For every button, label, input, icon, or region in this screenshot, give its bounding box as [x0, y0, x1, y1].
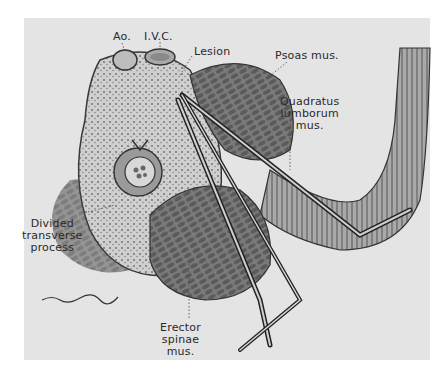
label-ivc: I.V.C.	[144, 31, 173, 43]
label-aorta: Ao.	[113, 31, 131, 43]
illustrator-signature	[42, 295, 118, 304]
aorta	[113, 50, 137, 70]
label-erector-spinae: Erector spinae mus.	[160, 322, 201, 358]
label-quadratus: Quadratus lumborum mus.	[280, 96, 339, 132]
label-lesion: Lesion	[194, 46, 230, 58]
ivc	[145, 49, 175, 65]
label-transverse-process: Divided transverse process	[22, 218, 83, 254]
label-psoas: Psoas mus.	[275, 50, 339, 62]
